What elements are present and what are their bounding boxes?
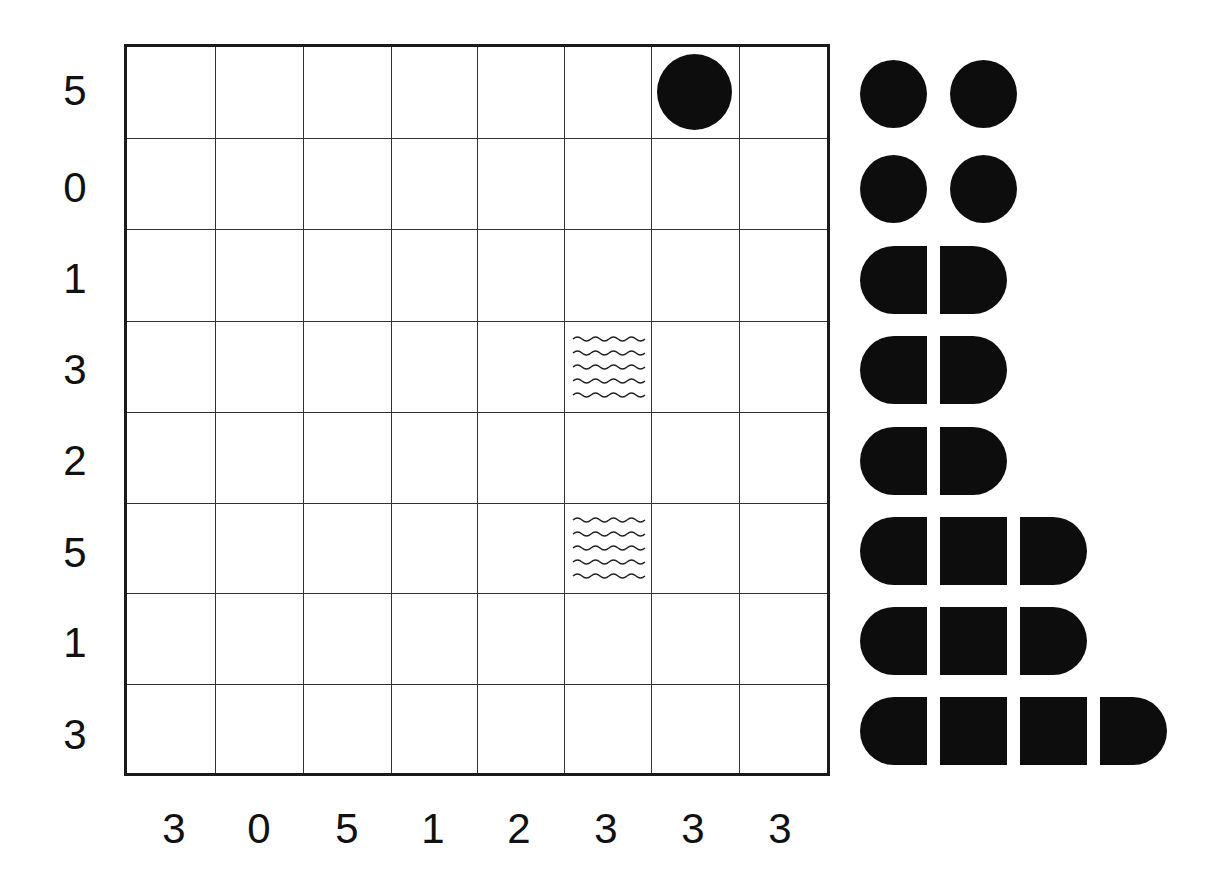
col-clue-6: 3 [562, 808, 650, 850]
grid-line [127, 321, 827, 322]
ship-bow-icon [860, 246, 927, 314]
fleet-destroyer-1 [860, 246, 1020, 324]
grid-line [391, 47, 392, 773]
ship-middle-icon [1020, 697, 1087, 765]
grid-line [127, 503, 827, 504]
fleet-battleship [860, 697, 1180, 775]
fleet-destroyer-3 [860, 427, 1020, 505]
grid-line [739, 47, 740, 773]
grid-line [127, 138, 827, 139]
fleet-submarine-row-1 [860, 60, 1020, 138]
grid-line [303, 47, 304, 773]
row-clue-5: 2 [50, 440, 100, 482]
ship-bow-icon [860, 697, 927, 765]
ship-middle-icon [940, 697, 1007, 765]
row-clue-6: 5 [50, 532, 100, 574]
wave-icon [569, 327, 649, 407]
ship-stern-icon [940, 246, 1007, 314]
grid-line [127, 412, 827, 413]
grid-line [127, 684, 827, 685]
wave-icon [569, 508, 649, 588]
ship-bow-icon [860, 427, 927, 495]
submarine-icon [860, 155, 927, 223]
grid-cell-r1-c6[interactable] [652, 47, 739, 138]
grid-line [127, 229, 827, 230]
grid-line [477, 47, 478, 773]
row-clue-7: 1 [50, 622, 100, 664]
col-clue-1: 3 [130, 808, 218, 850]
grid-line [215, 47, 216, 773]
row-clue-4: 3 [50, 349, 100, 391]
ship-stern-icon [940, 336, 1007, 404]
ship-stern-icon [940, 427, 1007, 495]
row-clue-2: 0 [50, 167, 100, 209]
ship-bow-icon [860, 517, 927, 585]
col-clue-2: 0 [215, 808, 303, 850]
grid-line [127, 593, 827, 594]
grid-cell-r6-c5[interactable] [565, 504, 651, 593]
row-clue-3: 1 [50, 258, 100, 300]
grid-line [651, 47, 652, 773]
submarine-icon [950, 60, 1017, 128]
ship-stern-icon [1100, 697, 1167, 765]
col-clue-3: 5 [303, 808, 391, 850]
col-clue-5: 2 [475, 808, 563, 850]
fleet-submarine-row-2 [860, 155, 1020, 233]
submarine-icon [950, 155, 1017, 223]
ship-bow-icon [860, 336, 927, 404]
ship-bow-icon [860, 607, 927, 675]
filled-circle-icon [657, 54, 732, 130]
col-clue-8: 3 [736, 808, 824, 850]
fleet-cruiser-2 [860, 607, 1100, 685]
row-clue-8: 3 [50, 714, 100, 756]
row-clue-1: 5 [50, 70, 100, 112]
submarine-icon [860, 60, 927, 128]
col-clue-7: 3 [649, 808, 737, 850]
ship-middle-icon [940, 607, 1007, 675]
puzzle-grid[interactable] [124, 44, 830, 776]
ship-stern-icon [1020, 607, 1087, 675]
fleet-cruiser-1 [860, 517, 1100, 595]
grid-cell-r4-c5[interactable] [565, 322, 651, 412]
ship-stern-icon [1020, 517, 1087, 585]
ship-middle-icon [940, 517, 1007, 585]
fleet-destroyer-2 [860, 336, 1020, 414]
col-clue-4: 1 [389, 808, 477, 850]
